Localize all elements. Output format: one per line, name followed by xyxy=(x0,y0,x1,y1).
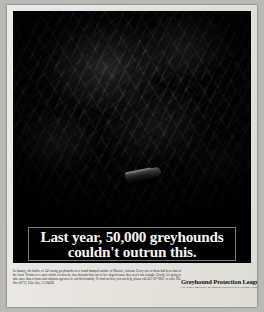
body-copy-text: In January, the bodies of 143 racing gre… xyxy=(13,269,181,286)
copy-area: In January, the bodies of 143 racing gre… xyxy=(13,269,251,303)
headline-line-1: Last year, 50,000 greyhounds xyxy=(40,229,223,245)
scanned-page-background: Last year, 50,000 greyhounds couldn't ou… xyxy=(0,0,264,312)
headline-block: Last year, 50,000 greyhounds couldn't ou… xyxy=(28,227,236,261)
advertisement-page: Last year, 50,000 greyhounds couldn't ou… xyxy=(7,5,257,307)
advertiser-tagline: A NATIONAL NETWORK OF PEOPLE WORKING TO … xyxy=(181,286,251,289)
advertiser-name: Greyhound Protection League xyxy=(181,278,251,285)
advertisement-photo xyxy=(13,11,251,263)
advertiser-logo: Greyhound Protection League A NATIONAL N… xyxy=(181,278,251,289)
photo-vignette xyxy=(13,11,251,263)
headline-line-2: couldn't outrun this. xyxy=(68,244,197,260)
